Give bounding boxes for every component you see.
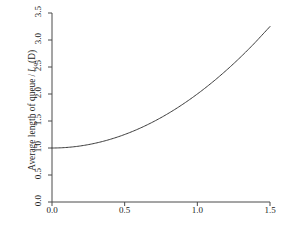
chart-figure: Average length of queue/Lq(D) 0.00.51.01…: [0, 0, 285, 249]
axis-lines: [52, 13, 270, 202]
data-series-line: [52, 27, 270, 149]
x-axis-tick-marks: [52, 202, 270, 206]
plot-area: [0, 0, 285, 249]
y-axis-tick-marks: [48, 13, 52, 202]
